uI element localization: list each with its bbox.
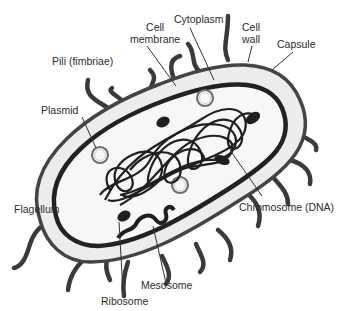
- label-cell-wall: Cell wall: [242, 21, 260, 45]
- label-cell-membrane-line2: membrane: [130, 33, 180, 45]
- label-cell-membrane: Cell membrane: [130, 21, 180, 45]
- label-cell-wall-line2: wall: [242, 33, 260, 45]
- label-flagellum: Flagellum: [14, 203, 60, 215]
- bacterial-cell-diagram: Cell membrane Cytoplasm Cell wall Capsul…: [0, 0, 343, 311]
- label-plasmid: Plasmid: [41, 104, 78, 116]
- label-mesosome: Mesosome: [141, 279, 192, 291]
- leader-cell-wall: [248, 46, 252, 62]
- label-cytoplasm: Cytoplasm: [174, 13, 224, 25]
- label-pili: Pili (fimbriae): [52, 55, 113, 67]
- label-ribosome: Ribosome: [101, 295, 148, 307]
- label-capsule: Capsule: [277, 38, 316, 50]
- label-cell-membrane-line1: Cell: [130, 21, 180, 33]
- label-chromosome: Chromosome (DNA): [239, 201, 334, 213]
- cell-membrane-outline: [54, 84, 286, 246]
- label-cell-wall-line1: Cell: [242, 21, 260, 33]
- leader-capsule: [272, 52, 293, 70]
